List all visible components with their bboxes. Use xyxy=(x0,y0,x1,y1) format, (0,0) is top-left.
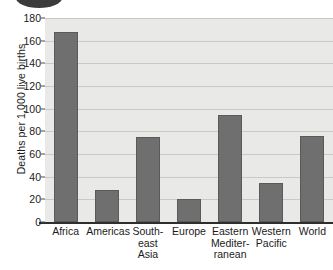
x-axis-tick-label-line: Pacific xyxy=(251,238,292,250)
bar xyxy=(259,183,283,222)
x-axis-tick-label-line: South- xyxy=(127,226,168,238)
gridline xyxy=(45,86,333,87)
x-axis-tick-label-line: Asia xyxy=(127,249,168,261)
x-axis-tick-label-line: Western xyxy=(251,226,292,238)
y-axis-tick-mark xyxy=(41,18,45,19)
bar xyxy=(54,32,78,222)
y-axis-tick-label: 100 xyxy=(1,103,41,115)
x-axis-line xyxy=(39,222,333,224)
y-axis-tick-mark xyxy=(41,176,45,177)
bar xyxy=(136,137,160,222)
bar xyxy=(218,115,242,222)
chart-figure: Deaths per 1,000 live births 02040608010… xyxy=(0,0,333,270)
y-axis-tick-label: 20 xyxy=(1,193,41,205)
x-axis-tick-label-line: Americas xyxy=(86,226,127,238)
x-axis-tick-label: EasternMediter-ranean xyxy=(210,226,251,261)
y-axis-tick-mark xyxy=(41,222,45,223)
gridline xyxy=(45,109,333,110)
bar xyxy=(300,136,324,222)
plot-area xyxy=(45,18,333,222)
y-axis-tick-label: 40 xyxy=(1,171,41,183)
y-axis-tick-label: 160 xyxy=(1,35,41,47)
y-axis-tick-mark xyxy=(41,63,45,64)
y-axis-tick-mark xyxy=(41,86,45,87)
x-axis-tick-label: Americas xyxy=(86,226,127,238)
y-axis-tick-mark xyxy=(41,40,45,41)
y-axis-tick-label: 60 xyxy=(1,148,41,160)
y-axis-tick-mark xyxy=(41,131,45,132)
x-axis-tick-label: WesternPacific xyxy=(251,226,292,249)
x-axis-tick-label-line: Africa xyxy=(45,226,86,238)
bar xyxy=(95,190,119,222)
gridline xyxy=(45,154,333,155)
y-axis-tick-label: 180 xyxy=(1,12,41,24)
y-axis-tick-label: 120 xyxy=(1,80,41,92)
gridline xyxy=(45,63,333,64)
gridline xyxy=(45,18,333,19)
x-axis-tick-label-line: World xyxy=(292,226,333,238)
x-axis-tick-label-line: Eastern xyxy=(210,226,251,238)
x-axis-tick-label: Africa xyxy=(45,226,86,238)
gridline xyxy=(45,131,333,132)
y-axis-tick-mark xyxy=(41,108,45,109)
plot-inner xyxy=(45,18,333,222)
x-axis-tick-label: South-eastAsia xyxy=(127,226,168,261)
y-axis-tick-label: 140 xyxy=(1,57,41,69)
y-axis-tick-label: 80 xyxy=(1,125,41,137)
x-axis-tick-label-line: ranean xyxy=(210,249,251,261)
x-axis-tick-label-line: Europe xyxy=(168,226,209,238)
gridline xyxy=(45,177,333,178)
y-axis-tick-mark xyxy=(41,154,45,155)
x-axis-tick-label: World xyxy=(292,226,333,238)
y-axis-tick-mark xyxy=(41,199,45,200)
bar xyxy=(177,199,201,222)
gridline xyxy=(45,41,333,42)
y-axis-tick-label: 0 xyxy=(1,216,41,228)
x-axis-tick-label: Europe xyxy=(168,226,209,238)
